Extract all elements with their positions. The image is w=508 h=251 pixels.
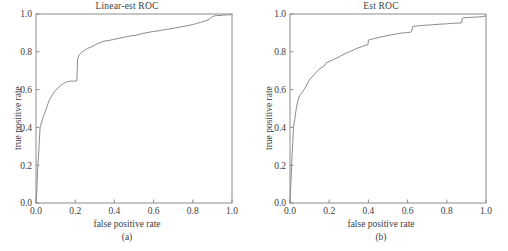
panel-b-x-tick-label: 0.8 <box>441 206 453 216</box>
panel-a-plot: 0.00.20.40.60.81.00.00.20.40.60.81.0 <box>0 0 254 251</box>
panel-b-y-axis-label: true positive rate <box>264 86 274 150</box>
panel-b-y-tick-label: 0.4 <box>274 123 286 133</box>
panel-a-y-tick-label: 0.0 <box>20 198 32 208</box>
panel-b-y-tick-label: 1.0 <box>274 9 286 19</box>
panel-a: Linear-est ROC 0.00.20.40.60.81.00.00.20… <box>0 0 254 251</box>
panel-b-y-tick-label: 0.2 <box>274 161 286 171</box>
panel-a-y-tick-label: 0.2 <box>20 161 32 171</box>
panel-b: Est ROC 0.00.20.40.60.81.00.00.20.40.60.… <box>254 0 508 251</box>
panel-b-x-axis-label: false positive rate <box>254 219 508 229</box>
panel-b-y-tick-label: 0.0 <box>274 198 286 208</box>
panel-b-y-tick-label: 0.6 <box>274 85 286 95</box>
panel-a-y-tick-label: 1.0 <box>20 9 32 19</box>
panel-b-x-tick-label: 0.2 <box>323 206 335 216</box>
panel-b-x-tick-label: 0.4 <box>362 206 374 216</box>
panel-b-x-tick-label: 0.6 <box>402 206 414 216</box>
panel-a-x-axis-label: false positive rate <box>0 219 254 229</box>
panel-a-x-tick-label: 1.0 <box>226 206 238 216</box>
panel-a-plot-frame <box>36 14 232 203</box>
panel-a-x-tick-label: 0.6 <box>148 206 160 216</box>
panel-a-roc-curve <box>36 15 232 203</box>
panel-b-plot-frame <box>290 14 486 203</box>
panel-b-x-tick-label: 1.0 <box>480 206 492 216</box>
panel-a-y-axis-label: true positive rate <box>13 86 23 150</box>
panel-b-caption: (b) <box>254 232 508 242</box>
panel-b-y-tick-label: 0.8 <box>274 47 286 57</box>
roc-figure: Linear-est ROC 0.00.20.40.60.81.00.00.20… <box>0 0 508 251</box>
panel-a-x-tick-label: 0.4 <box>108 206 120 216</box>
panel-b-roc-curve <box>290 16 486 203</box>
panel-a-x-tick-label: 0.2 <box>69 206 81 216</box>
panel-b-plot: 0.00.20.40.60.81.00.00.20.40.60.81.0 <box>254 0 508 251</box>
panel-a-caption: (a) <box>0 232 254 242</box>
panel-a-x-tick-label: 0.8 <box>187 206 199 216</box>
panel-a-y-tick-label: 0.8 <box>20 47 32 57</box>
